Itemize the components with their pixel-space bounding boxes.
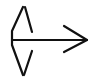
upper-left-stroke [12,7,23,40]
arrow-right-from-split-icon [0,0,89,82]
lower-right-stroke [24,51,32,75]
icon-canvas [0,0,89,82]
upper-right-stroke [25,7,32,32]
lower-left-stroke [12,40,23,75]
